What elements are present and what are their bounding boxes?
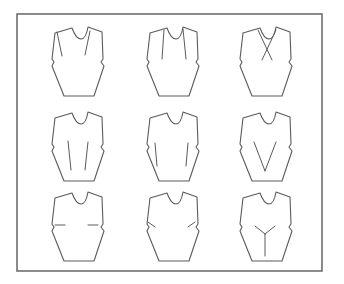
bodice-outline [52,27,104,96]
bodice-outline [240,112,292,181]
bodice-outline [52,112,104,181]
bodice-neck-darts [147,27,199,96]
bodice-crossed-neck-darts [240,27,292,96]
bodice-grid [52,27,292,261]
bodice-outline [240,27,292,96]
bodice-side-darts-angled [147,192,199,261]
bodice-diagram [0,0,344,284]
bodice-center-waist-v-darts [240,112,292,181]
bodice-outline [240,192,292,261]
bodice-outline [147,27,199,96]
bodice-side-darts-horizontal [52,192,104,261]
bodice-shoulder-darts [52,27,104,96]
bodice-waist-darts [147,112,199,181]
bodice-outline [52,192,104,261]
bodice-waist-tucks [52,112,104,181]
bodice-y-center-seam [240,192,292,261]
bodice-outline [147,112,199,181]
